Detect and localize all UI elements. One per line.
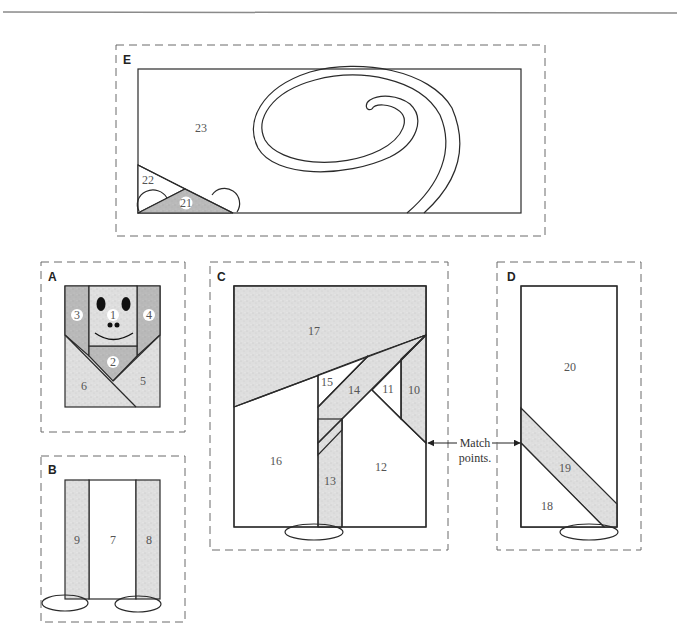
piece-3-label: 3 [74,308,80,322]
piece-10-label: 10 [408,383,420,397]
piece-9-label: 9 [74,533,80,547]
piece-13-label: 13 [324,474,336,488]
piece-20-label: 20 [564,360,576,374]
block-d: D 20 19 18 [497,262,641,550]
piece-11-label: 11 [382,382,394,396]
nostril-right [115,323,120,328]
piece-23-label: 23 [195,121,207,135]
match-label-line2: points. [459,451,491,465]
nostril-left [108,323,113,328]
piece-18-label: 18 [541,499,553,513]
block-b: B 9 7 8 [41,456,185,622]
match-label-line1: Match [460,436,491,450]
piece-17-label: 17 [308,324,320,338]
block-b-label: B [48,463,57,477]
block-a-label: A [48,270,57,284]
block-c: C 17 15 14 11 10 16 12 13 [210,262,448,550]
block-d-label: D [507,270,516,284]
piece-5-label: 5 [140,374,146,388]
piece-1-label: 1 [110,308,116,322]
piece-7-label: 7 [110,533,116,547]
piece-21-label: 21 [180,196,192,210]
piece-12-label: 12 [375,460,387,474]
top-rule [3,12,677,13]
piece-8-label: 8 [146,533,152,547]
quilt-diagram: E 23 22 21 A [0,0,677,634]
match-points-annotation: Match points. [428,436,520,465]
piece-22-label: 22 [142,173,154,187]
piece-2-label: 2 [110,355,116,369]
block-a: A 1 2 3 4 5 6 [41,262,185,432]
piece-19-label: 19 [559,461,571,475]
piece-4-label: 4 [146,308,152,322]
piece-6-label: 6 [81,379,87,393]
piece-16-label: 16 [270,454,282,468]
block-e-label: E [123,53,131,67]
piece-23 [138,69,521,213]
eye-right [122,297,131,311]
piece-15-label: 15 [321,375,333,389]
piece-14-label: 14 [348,383,360,397]
eye-left [97,297,106,311]
block-e: E 23 22 21 [116,45,545,236]
block-c-label: C [217,270,226,284]
